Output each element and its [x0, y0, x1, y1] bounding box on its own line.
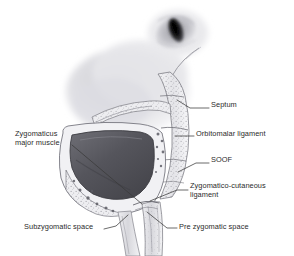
anatomical-figure: Septum Orbitomalar ligament SOOF Zygomat… — [0, 0, 294, 256]
label-zygomaticus-major-muscle: Zygomaticus major muscle — [15, 129, 60, 147]
anatomy-illustration — [0, 0, 294, 256]
label-soof: SOOF — [211, 155, 232, 164]
label-septum: Septum — [211, 100, 237, 109]
label-subzygomatic-space: Subzygomatic space — [24, 222, 93, 231]
label-zygomatico-cutaneous-ligament: Zygomatico-cutaneous ligament — [190, 181, 266, 199]
label-pre-zygomatic-space: Pre zygomatic space — [179, 222, 249, 231]
label-orbitomalar-ligament: Orbitomalar ligament — [196, 129, 266, 138]
